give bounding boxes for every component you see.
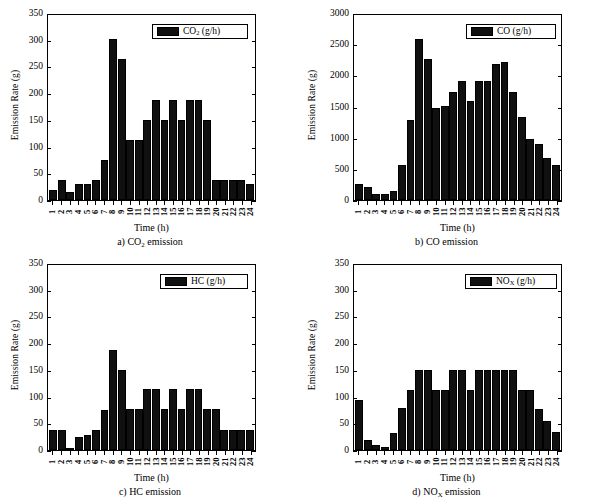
- bar: [143, 120, 151, 200]
- bar: [355, 184, 363, 200]
- bar: [169, 389, 177, 450]
- bar: [467, 101, 475, 200]
- bar: [220, 180, 228, 200]
- bar: [195, 389, 203, 450]
- bar: [58, 430, 66, 450]
- bar: [203, 120, 211, 200]
- bars-hc: [48, 265, 255, 450]
- bar: [75, 437, 83, 450]
- x-tick-label: 24: [246, 204, 255, 219]
- bar: [118, 370, 126, 450]
- bar: [407, 390, 415, 450]
- bar: [126, 140, 134, 200]
- bar: [526, 390, 534, 450]
- y-tick-label: 250: [335, 313, 353, 323]
- bar: [432, 108, 440, 200]
- panel-co2: 050100150200250300350 Emission Rate (g) …: [0, 0, 300, 251]
- bar: [449, 92, 457, 200]
- legend-co: CO (g/h): [466, 24, 556, 39]
- y-tick-label: 150: [29, 116, 47, 126]
- caption-nox: d) NOX emission: [300, 486, 593, 497]
- bar: [237, 430, 245, 450]
- y-tick-label: 50: [34, 170, 48, 180]
- bar: [203, 409, 211, 450]
- bar: [212, 409, 220, 450]
- xlabel-nox: Time (h): [353, 472, 562, 483]
- panel-co: 050010001500200025003000 Emission Rate (…: [300, 0, 593, 251]
- y-tick-label: 3000: [330, 9, 353, 19]
- bar: [535, 409, 543, 450]
- y-tick-label: 300: [29, 286, 47, 296]
- caption-subscript: X: [438, 491, 443, 498]
- bar: [381, 447, 389, 450]
- bar: [467, 390, 475, 450]
- y-tick-label: 1000: [330, 134, 353, 144]
- bar: [475, 370, 483, 450]
- bar: [475, 81, 483, 200]
- bar: [355, 400, 363, 450]
- xticks-nox: 123456789101112131415161718192021222324: [353, 454, 562, 469]
- bar: [492, 64, 500, 200]
- bars-co2: [48, 15, 255, 200]
- y-tick-label: 250: [29, 63, 47, 73]
- legend-nox: NOX (g/h): [465, 274, 557, 289]
- legend-swatch-icon: [471, 27, 493, 36]
- bar: [390, 433, 398, 450]
- y-tick-label: 150: [29, 366, 47, 376]
- x-tick-label: 24: [552, 454, 561, 469]
- bar: [552, 432, 560, 451]
- y-tick-label: 500: [335, 165, 353, 175]
- bar: [161, 120, 169, 200]
- bar: [398, 165, 406, 200]
- legend-swatch-icon: [470, 277, 492, 286]
- bar: [229, 180, 237, 200]
- bar: [432, 390, 440, 450]
- bar: [135, 409, 143, 450]
- y-tick-label: 150: [335, 366, 353, 376]
- yticks-hc: 050100150200250300350: [0, 264, 47, 451]
- bar: [543, 421, 551, 450]
- bar: [186, 100, 194, 200]
- y-tick-label: 200: [29, 339, 47, 349]
- bar: [424, 370, 432, 450]
- bar: [49, 430, 57, 450]
- bar: [49, 190, 57, 200]
- y-tick-label: 350: [29, 259, 47, 269]
- xticks-co2: 123456789101112131415161718192021222324: [47, 204, 256, 219]
- bars-co: [354, 15, 561, 200]
- y-tick-label: 200: [335, 339, 353, 349]
- bar: [424, 59, 432, 200]
- bar: [415, 370, 423, 450]
- bar: [381, 194, 389, 200]
- bar: [101, 410, 109, 450]
- bar: [372, 194, 380, 200]
- bar: [118, 59, 126, 200]
- bar: [135, 140, 143, 200]
- y-tick-label: 300: [335, 286, 353, 296]
- x-tick-label: 24: [552, 204, 561, 219]
- bar: [220, 430, 228, 450]
- caption-text: c) HC: [119, 486, 143, 497]
- bar: [526, 139, 534, 200]
- ylabel-hc: Emission Rate (g): [10, 307, 20, 403]
- y-tick-label: 0: [38, 446, 47, 456]
- bar: [449, 370, 457, 450]
- bar: [398, 408, 406, 450]
- bar: [441, 390, 449, 450]
- bar: [552, 165, 560, 200]
- y-tick-label: 300: [29, 36, 47, 46]
- figure-grid: 050100150200250300350 Emission Rate (g) …: [0, 0, 593, 503]
- bar: [126, 409, 134, 450]
- axes-hc: [47, 264, 256, 451]
- y-tick-label: 2000: [330, 72, 353, 82]
- bar: [109, 39, 117, 200]
- bar: [543, 158, 551, 200]
- y-tick-label: 250: [29, 313, 47, 323]
- caption-tail: emission: [143, 486, 181, 497]
- bar: [84, 184, 92, 200]
- bar: [58, 180, 66, 200]
- legend-label-nox: NOX (g/h): [496, 277, 535, 287]
- bar: [484, 370, 492, 450]
- bars-nox: [354, 265, 561, 450]
- y-tick-label: 50: [34, 420, 48, 430]
